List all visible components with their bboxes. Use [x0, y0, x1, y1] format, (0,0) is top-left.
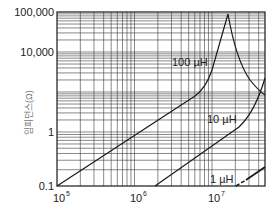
svg-text:6: 6 — [143, 190, 147, 197]
xtick-1e6: 10 6 — [130, 190, 147, 204]
grid — [57, 12, 265, 186]
xtick-1e7: 10 7 — [208, 190, 225, 204]
xtick-1e5: 10 5 — [53, 190, 70, 204]
curve-1uH-dashed — [236, 180, 246, 186]
ytick-0.1: 0.1 — [39, 180, 54, 192]
plot-frame — [57, 12, 265, 186]
label-10uH: 10 µH — [207, 113, 237, 125]
svg-text:7: 7 — [221, 190, 225, 197]
impedance-chart: 100 µH 10 µH 1 µH 100,000 10,000 1 0.1 1… — [0, 0, 270, 211]
y-axis-title: 임피던스(Ω) — [23, 90, 34, 135]
label-100uH: 100 µH — [172, 56, 208, 68]
svg-text:10: 10 — [130, 192, 142, 204]
ytick-100000: 100,000 — [14, 6, 54, 18]
ytick-10000: 10,000 — [20, 46, 54, 58]
ytick-1: 1 — [48, 126, 54, 138]
svg-text:10: 10 — [208, 192, 220, 204]
svg-text:5: 5 — [66, 190, 70, 197]
svg-text:10: 10 — [53, 192, 65, 204]
label-1uH: 1 µH — [210, 173, 234, 185]
